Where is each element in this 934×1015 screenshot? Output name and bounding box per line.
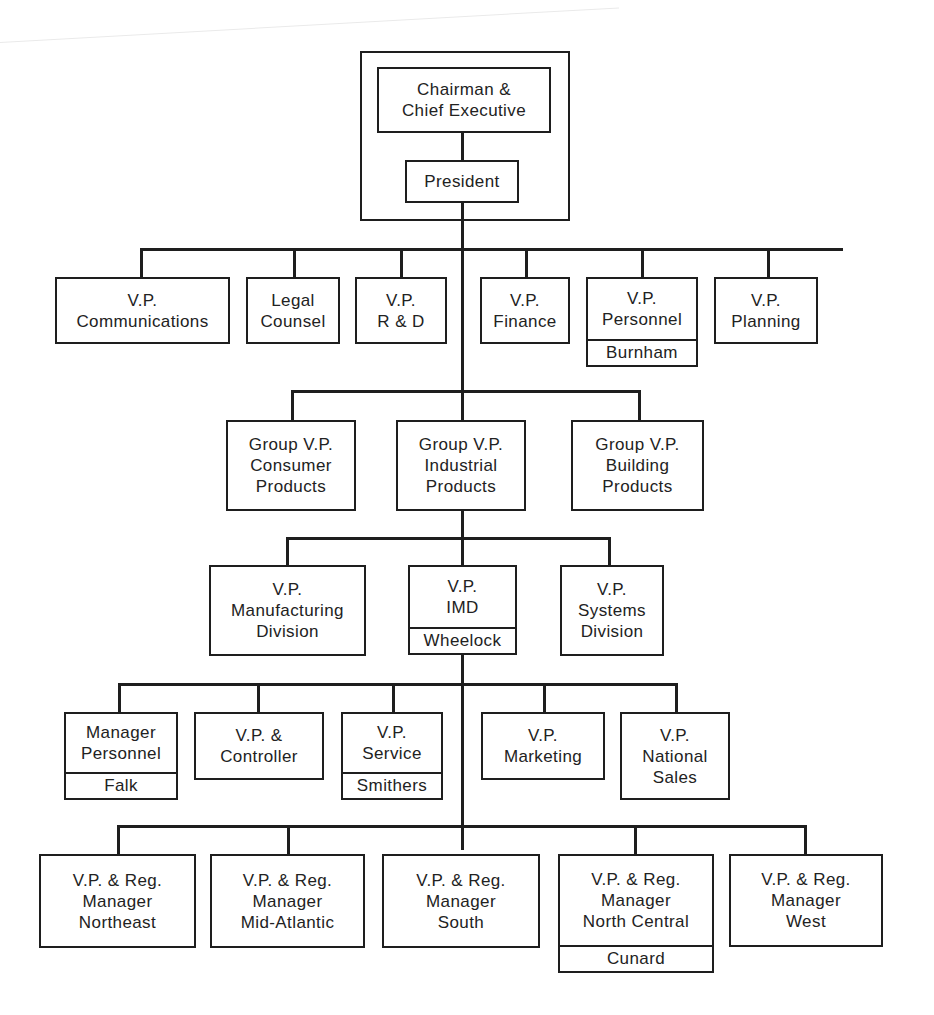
box-legal-counsel: LegalCounsel	[246, 277, 340, 344]
box-vp-planning: V.P.Planning	[714, 277, 818, 344]
incumbent-name: Smithers	[343, 772, 441, 798]
box-region-south: V.P. & Reg.ManagerSouth	[382, 854, 540, 948]
connector	[634, 825, 637, 855]
connector	[286, 537, 289, 566]
main-trunk	[461, 202, 464, 850]
box-president: President	[405, 160, 519, 203]
connector	[400, 248, 403, 278]
imd-staff-bar	[118, 683, 678, 686]
connector	[287, 825, 290, 855]
box-vp-personnel: V.P.Personnel Burnham	[586, 277, 698, 367]
connector	[641, 248, 644, 278]
connector	[608, 537, 611, 566]
box-vp-systems: V.P.SystemsDivision	[560, 565, 664, 656]
box-vp-imd: V.P.IMD Wheelock	[408, 565, 517, 655]
connector	[804, 825, 807, 855]
box-vp-marketing: V.P.Marketing	[481, 712, 605, 780]
scan-artifact	[0, 7, 619, 43]
box-vp-controller: V.P. &Controller	[194, 712, 324, 780]
connector	[291, 390, 294, 420]
box-vp-service: V.P.Service Smithers	[341, 712, 443, 800]
connector	[257, 683, 260, 713]
box-vp-communications: V.P.Communications	[55, 277, 230, 344]
box-group-industrial: Group V.P.IndustrialProducts	[396, 420, 526, 511]
box-region-west: V.P. & Reg.ManagerWest	[729, 854, 883, 947]
connector	[543, 683, 546, 713]
staff-bar	[140, 248, 843, 251]
box-vp-manufacturing: V.P.ManufacturingDivision	[209, 565, 366, 656]
connector	[118, 683, 121, 713]
box-manager-personnel: ManagerPersonnel Falk	[64, 712, 178, 800]
division-bar	[286, 537, 611, 540]
region-bar	[117, 825, 807, 828]
incumbent-name: Wheelock	[410, 627, 515, 653]
connector	[140, 248, 143, 278]
box-region-north-central: V.P. & Reg.ManagerNorth Central Cunard	[558, 854, 714, 973]
box-vp-rd: V.P.R & D	[355, 277, 447, 344]
connector	[117, 825, 120, 855]
box-vp-national-sales: V.P.NationalSales	[620, 712, 730, 800]
incumbent-name: Cunard	[560, 945, 712, 971]
connector	[525, 248, 528, 278]
box-region-mid-atlantic: V.P. & Reg.ManagerMid-Atlantic	[210, 854, 365, 948]
connector	[675, 683, 678, 713]
box-region-northeast: V.P. & Reg.ManagerNortheast	[39, 854, 196, 948]
connector	[392, 683, 395, 713]
incumbent-name: Burnham	[588, 339, 696, 365]
group-bar	[291, 390, 641, 393]
box-vp-finance: V.P.Finance	[480, 277, 570, 344]
incumbent-name: Falk	[66, 772, 176, 798]
box-chairman: Chairman &Chief Executive	[377, 67, 551, 133]
connector	[461, 132, 464, 160]
connector	[293, 248, 296, 278]
connector	[638, 390, 641, 420]
connector	[767, 248, 770, 278]
box-group-building: Group V.P.BuildingProducts	[571, 420, 704, 511]
box-group-consumer: Group V.P.ConsumerProducts	[226, 420, 356, 511]
